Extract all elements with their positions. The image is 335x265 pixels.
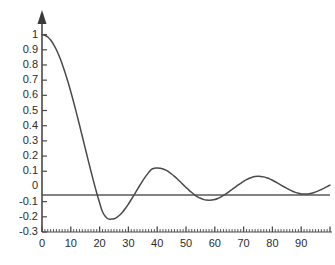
y-tick-label: -0.2 [19,211,38,222]
y-tick-label: 0.1 [23,165,38,176]
x-tick-label: 90 [281,238,321,249]
y-tick-label: 0.5 [23,105,38,116]
y-tick-label: 0 [32,180,38,191]
y-tick-label: 1 [32,29,38,40]
data-series-line [42,35,330,220]
y-tick-label: 0.2 [23,150,38,161]
y-tick-label: -0.1 [19,196,38,207]
y-tick-label: 0.7 [23,74,38,85]
chart-plot-area [0,0,335,265]
y-tick-label: 0.8 [23,59,38,70]
x-axis-minor-ticks [42,227,330,233]
y-tick-label: 0.6 [23,89,38,100]
y-axis-arrow-icon [38,10,47,24]
chart-container: 10.90.80.70.60.50.40.30.20.10-0.1-0.2-0.… [0,0,335,265]
y-tick-label: -0.3 [19,226,38,237]
y-tick-label: 0.3 [23,135,38,146]
y-tick-label: 0.9 [23,44,38,55]
y-tick-label: 0.4 [23,120,38,131]
